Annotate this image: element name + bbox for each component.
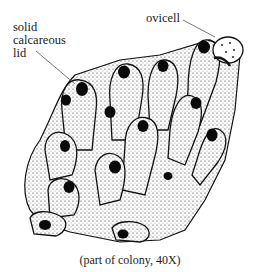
ovicell-leader-line [183,20,215,37]
lid-label-line-3: lid [13,47,83,60]
lid-label: solid calcareous lid [13,21,83,60]
figure-caption: (part of colony, 40X) [0,253,260,268]
ovicell-label: ovicell [146,12,180,25]
